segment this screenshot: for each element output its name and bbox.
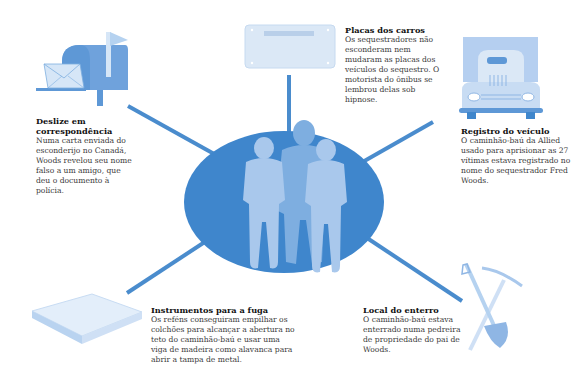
callout-escape: Instrumentos para a fuga Os reféns conse…	[151, 305, 297, 365]
callout-registration-body: O caminhão-baú da Allied usado para apri…	[461, 136, 571, 186]
callout-escape-body: Os reféns conseguiram empilhar os colchõ…	[151, 315, 297, 365]
callout-burial-title: Local do enterro	[363, 305, 465, 315]
connector-burial	[355, 230, 462, 301]
callout-plates-body: Os sequestradores não esconderam nem mud…	[345, 35, 445, 105]
callout-plates-title: Placas dos carros	[345, 25, 445, 35]
callout-escape-title: Instrumentos para a fuga	[151, 305, 297, 315]
callout-mail-body: Numa carta enviada do esconderijo no Can…	[36, 136, 136, 196]
license-plate-icon	[245, 25, 335, 68]
mattress-icon	[32, 294, 142, 344]
callout-burial-body: O caminhão-baú estava enterrado numa ped…	[363, 315, 465, 355]
callout-mail-title: Deslize em correspondência	[36, 116, 136, 136]
shovel-pickaxe-icon	[462, 264, 522, 350]
callout-mail: Deslize em correspondência Numa carta en…	[36, 116, 136, 196]
mailbox-icon	[36, 32, 128, 106]
callout-burial: Local do enterro O caminhão-baú estava e…	[363, 305, 465, 355]
connector-mail	[128, 106, 225, 160]
truck-icon	[459, 37, 543, 119]
callout-plates: Placas dos carros Os sequestradores não …	[345, 25, 445, 105]
callout-registration: Registro do veículo O caminhão-baú da Al…	[461, 126, 571, 186]
callout-registration-title: Registro do veículo	[461, 126, 571, 136]
